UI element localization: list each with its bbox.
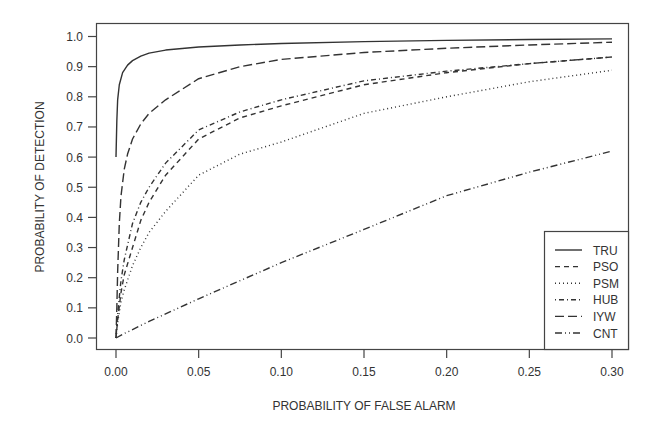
legend-label: PSO [593, 260, 618, 274]
x-tick-label: 0.15 [352, 365, 376, 379]
series-iyw-line [116, 42, 612, 338]
x-axis-title: PROBABILITY OF FALSE ALARM [272, 399, 455, 413]
x-axis: 0.000.050.100.150.200.250.30 [104, 350, 624, 380]
y-tick-label: 1.0 [66, 30, 83, 44]
x-tick-label: 0.25 [518, 365, 542, 379]
x-tick-label: 0.30 [600, 365, 624, 379]
x-tick-label: 0.00 [104, 365, 128, 379]
legend-label: HUB [593, 293, 618, 307]
y-tick-label: 0.8 [66, 90, 83, 104]
y-tick-label: 0.6 [66, 151, 83, 165]
series-hub-line [116, 57, 612, 338]
x-tick-label: 0.05 [187, 365, 211, 379]
y-axis: 0.00.10.20.30.40.50.60.70.80.91.0 [66, 30, 96, 346]
legend-label: PSM [593, 277, 619, 291]
x-tick-label: 0.10 [270, 365, 294, 379]
x-tick-label: 0.20 [435, 365, 459, 379]
y-tick-label: 0.4 [66, 211, 83, 225]
y-axis-title: PROBABILITY OF DETECTION [33, 101, 47, 272]
y-tick-label: 0.3 [66, 241, 83, 255]
series-psm-line [116, 70, 612, 338]
legend: TRUPSOPSMHUBIYWCNT [545, 232, 629, 350]
series-tru-line [116, 39, 612, 157]
legend-label: IYW [593, 310, 616, 324]
y-tick-label: 0.1 [66, 301, 83, 315]
y-tick-label: 0.2 [66, 271, 83, 285]
series-pso-line [116, 57, 612, 338]
y-tick-label: 0.0 [66, 332, 83, 346]
legend-label: CNT [593, 327, 618, 341]
y-tick-label: 0.5 [66, 181, 83, 195]
roc-chart: 0.00.10.20.30.40.50.60.70.80.91.0 0.000.… [0, 0, 658, 430]
y-tick-label: 0.7 [66, 120, 83, 134]
legend-label: TRU [593, 244, 618, 258]
series-layer [116, 39, 612, 338]
y-tick-label: 0.9 [66, 60, 83, 74]
series-cnt-line [116, 151, 612, 338]
